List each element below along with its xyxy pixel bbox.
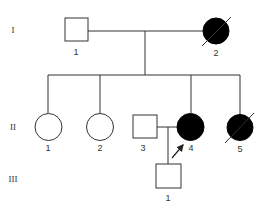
individual-label-II-4: 4 xyxy=(188,144,193,153)
proband-arrow-icon xyxy=(172,145,183,158)
generation-label-I: I xyxy=(12,26,15,35)
generation-label-II: II xyxy=(10,123,16,132)
individual-I-1-male-symbol[interactable] xyxy=(65,18,88,41)
individual-label-II-1: 1 xyxy=(45,144,50,153)
pedigree-lines xyxy=(0,0,266,205)
individual-label-III-1: 1 xyxy=(165,194,170,203)
individual-label-II-3: 3 xyxy=(140,144,145,153)
individual-label-I-2: 2 xyxy=(213,49,218,58)
generation-label-III: III xyxy=(9,175,18,184)
individual-I-2-female-affected-symbol[interactable] xyxy=(203,18,229,44)
individual-label-II-2: 2 xyxy=(97,144,102,153)
individual-III-1-male-symbol[interactable] xyxy=(156,164,181,188)
individual-label-I-1: 1 xyxy=(73,48,78,57)
individual-II-1-female-symbol[interactable] xyxy=(35,114,62,141)
individual-label-II-5: 5 xyxy=(237,145,242,154)
individual-II-2-female-symbol[interactable] xyxy=(87,114,114,141)
individual-II-3-male-symbol[interactable] xyxy=(133,115,157,138)
pedigree-diagram: I II III 1 2 1 2 3 4 5 1 xyxy=(0,0,266,205)
individual-II-4-female-affected-symbol[interactable] xyxy=(177,114,204,141)
